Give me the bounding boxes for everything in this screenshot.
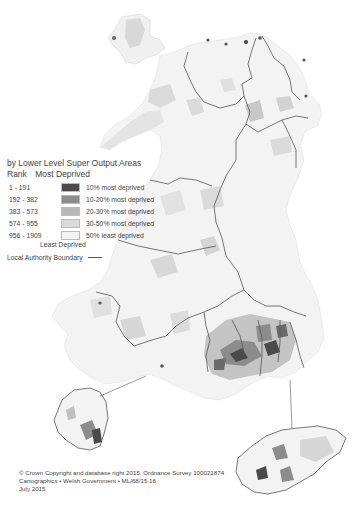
boundary-line-sample: [88, 257, 102, 258]
legend-range: 1 - 191: [7, 184, 61, 191]
legend-swatch: [61, 183, 80, 192]
legend-range: 956 - 1909: [7, 232, 61, 239]
legend-range: 192 - 382: [7, 196, 61, 203]
legend-rank-header: Rank Most Deprived: [7, 169, 197, 179]
inset-cardiff: [236, 426, 346, 494]
inset-leader-cardiff: [290, 380, 292, 428]
credit-line-1: © Crown Copyright and database right 201…: [19, 469, 224, 477]
credit-line-2: Cartographics • Welsh Government • ML/68…: [19, 477, 224, 485]
legend-label: 10% most deprived: [86, 184, 144, 191]
legend-row: 383 - 573 20-30% most deprived: [7, 205, 197, 217]
legend-range: 574 - 955: [7, 220, 61, 227]
boundary-legend: Local Authority Boundary: [7, 254, 197, 261]
credit-line-3: July 2015: [19, 485, 224, 493]
legend-label: 20-30% most deprived: [86, 208, 154, 215]
least-deprived-label: Least Deprived: [40, 241, 197, 248]
most-deprived-label: Most Deprived: [35, 169, 90, 179]
legend-swatch: [61, 207, 80, 216]
legend-row: 1 - 191 10% most deprived: [7, 181, 197, 193]
rank-label: Rank: [7, 169, 27, 179]
legend-row: 956 - 1909 50% least deprived: [7, 229, 197, 241]
boundary-label: Local Authority Boundary: [7, 254, 83, 261]
legend: by Lower Level Super Output Areas Rank M…: [7, 158, 197, 261]
legend-subtitle: by Lower Level Super Output Areas: [7, 158, 197, 168]
legend-row: 574 - 955 30-50% most deprived: [7, 217, 197, 229]
legend-swatch: [61, 231, 80, 240]
legend-row: 192 - 382 10-20% most deprived: [7, 193, 197, 205]
copyright-credits: © Crown Copyright and database right 201…: [19, 469, 224, 493]
legend-label: 30-50% most deprived: [86, 220, 154, 227]
legend-range: 383 - 573: [7, 208, 61, 215]
legend-swatch: [61, 219, 80, 228]
legend-label: 50% least deprived: [86, 232, 144, 239]
legend-swatch: [61, 195, 80, 204]
legend-label: 10-20% most deprived: [86, 196, 154, 203]
